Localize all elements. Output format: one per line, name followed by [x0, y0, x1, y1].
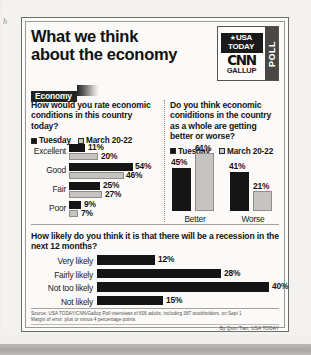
- column-value-better-tuesday: 45%: [171, 157, 187, 167]
- bar-value-very-likely: 12%: [158, 255, 174, 265]
- column-worse-tuesday: 41%: [230, 172, 249, 211]
- bar-not-too-likely: [97, 282, 269, 292]
- page-title: What we think about the economy: [31, 28, 211, 64]
- title-line-2: about the economy: [31, 46, 211, 64]
- poll-vertical-bar: POLL: [265, 27, 278, 80]
- bar-value-not-too-likely: 40%: [272, 282, 288, 292]
- bar-very-likely: [97, 255, 155, 265]
- legend-swatch-march-icon: [78, 138, 84, 144]
- source-note: Source: USA TODAY/CNN/Gallup Poll interv…: [31, 311, 279, 323]
- chart-question-left: How would you rate economic conditions i…: [31, 100, 159, 131]
- poll-label: POLL: [267, 41, 277, 67]
- chart-getting-better-or-worse: Do you think economic coniditions in the…: [170, 100, 281, 224]
- bar-group-poor: Poor 9% 7%: [31, 201, 159, 218]
- bar-category-excellent: Excellent: [31, 147, 66, 156]
- cnn-wordmark: CNN: [227, 54, 256, 67]
- page-bottom-gray-band: [0, 344, 311, 355]
- column-value-better-march: 61%: [195, 143, 211, 153]
- legend-swatch-tuesday-icon: [31, 138, 37, 144]
- column-better-tuesday: 45%: [172, 168, 191, 211]
- bar-row-not-too-likely: Not too likely 40%: [31, 282, 279, 294]
- column-group-worse: 41% 21%: [230, 149, 276, 211]
- scanned-page: h What we think about the economy ★USA T…: [0, 0, 311, 355]
- bar-value-good-march: 46%: [126, 171, 142, 181]
- bar-row-very-likely: Very likely 12%: [31, 255, 279, 267]
- bar-row-fairly-likely: Fairly likely 28%: [31, 269, 279, 281]
- bar-value-poor-march: 7%: [81, 209, 93, 219]
- logo-today-text: TODAY: [223, 43, 260, 52]
- column-better-march: 61%: [195, 153, 214, 211]
- columns-better-worse: 45% 61% 41% 21%: [170, 146, 281, 224]
- bar-poor-tuesday: [69, 201, 81, 209]
- bar-poor-march: [69, 210, 78, 218]
- bar-value-not-likely: 15%: [166, 296, 182, 306]
- column-category-worse: Worse: [230, 214, 276, 224]
- bar-group-good: Good 54% 46%: [31, 163, 159, 180]
- infographic-panel: What we think about the economy ★USA TOD…: [21, 17, 289, 332]
- title-line-1: What we think: [31, 27, 138, 45]
- bar-good-tuesday: [69, 163, 133, 171]
- column-worse-march: 21%: [253, 191, 272, 211]
- byline: By Quin Tian, USA TODAY: [220, 326, 279, 331]
- byline-divider: [31, 324, 279, 325]
- bar-row-not-likely: Not likely 15%: [31, 296, 279, 308]
- bar-not-likely: [97, 296, 163, 306]
- bar-value-fair-march: 27%: [105, 190, 121, 200]
- bar-good-march: [69, 172, 124, 180]
- tab-fade-decoration: [77, 85, 99, 96]
- panel-divider-vertical: [164, 100, 165, 222]
- column-category-better: Better: [172, 214, 218, 224]
- bar-group-fair: Fair 25% 27%: [31, 182, 159, 199]
- chart-question-bottom: How likely do you think it is that there…: [31, 231, 279, 252]
- bar-category-not-likely: Not likely: [31, 298, 93, 307]
- chart-economic-conditions-today: How would you rate economic conditions i…: [31, 100, 159, 224]
- gallup-wordmark: GALLUP: [227, 67, 257, 75]
- bar-category-fairly-likely: Fairly likely: [31, 271, 93, 280]
- column-value-worse-tuesday: 41%: [229, 161, 245, 171]
- logo-main-block: ★USA TODAY CNN GALLUP: [218, 27, 265, 80]
- bar-value-fairly-likely: 28%: [224, 269, 240, 279]
- column-group-better: 45% 61%: [172, 149, 218, 211]
- usa-today-cnn-gallup-poll-logo: ★USA TODAY CNN GALLUP POLL: [217, 26, 279, 81]
- bar-category-good: Good: [31, 166, 66, 175]
- bar-category-not-too-likely: Not too likely: [31, 284, 93, 293]
- section-tab-row: Economy: [31, 85, 206, 96]
- section-divider-horizontal: [31, 224, 279, 225]
- bar-value-excellent-march: 20%: [101, 152, 117, 162]
- bar-fair-march: [69, 191, 102, 199]
- source-line-2: Margin of error: plus or minus 4 percent…: [31, 317, 279, 323]
- page-edge-artifact: h: [3, 17, 7, 26]
- bar-excellent-march: [69, 153, 98, 161]
- page-bottom-light-band: [0, 335, 311, 344]
- bar-fairly-likely: [97, 269, 221, 279]
- source-divider: [31, 308, 279, 309]
- usa-today-wordmark: ★USA TODAY: [221, 33, 263, 52]
- bars-recession: Very likely 12% Fairly likely 28% Not to…: [31, 255, 279, 309]
- bar-category-very-likely: Very likely: [31, 257, 93, 266]
- chart-recession-likelihood: How likely do you think it is that there…: [31, 231, 279, 303]
- bars-economic-conditions: Excellent 11% 20% Good: [31, 144, 159, 220]
- bar-category-poor: Poor: [31, 204, 66, 213]
- bar-excellent-tuesday: [69, 144, 85, 152]
- bar-fair-tuesday: [69, 182, 100, 190]
- bar-group-excellent: Excellent 11% 20%: [31, 144, 159, 161]
- chart-question-right: Do you think economic coniditions in the…: [170, 100, 281, 142]
- top-charts-region: How would you rate economic conditions i…: [31, 100, 279, 224]
- bar-category-fair: Fair: [31, 185, 66, 194]
- column-value-worse-march: 21%: [253, 181, 269, 191]
